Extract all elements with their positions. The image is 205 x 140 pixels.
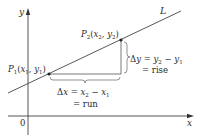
run-word: = run: [73, 99, 98, 109]
point-P2: [119, 38, 122, 41]
origin-label: 0: [20, 118, 25, 128]
slope-diagram: y x 0 L P2(x2, y2) P1(x1, y1) Δy = y2 − …: [0, 0, 205, 140]
y-axis-arrow-icon: [26, 8, 30, 15]
point-P1: [47, 72, 50, 75]
point-P1-label: P1(x1, y1): [7, 64, 46, 75]
point-P2-label: P2(x2, y2): [80, 29, 119, 40]
y-axis-label: y: [18, 7, 25, 17]
x-axis-label: x: [187, 118, 192, 128]
rise-equation: Δy = y2 − y1: [130, 54, 183, 65]
line-label: L: [159, 5, 166, 16]
line-L: [8, 11, 181, 93]
run-equation: Δx = x2 − x1: [57, 87, 110, 98]
rise-word: = rise: [142, 65, 168, 75]
run-brace: [50, 77, 120, 83]
